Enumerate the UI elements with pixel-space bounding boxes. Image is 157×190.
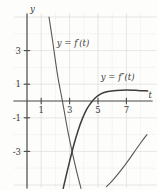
figure-container: 135731-1-3 y = f′(t)y = f″(t) yt: [0, 0, 157, 190]
x-axis-name: t: [149, 90, 153, 100]
label-f-double-prime: y = f″(t): [100, 72, 135, 82]
y-tick-label: 3: [16, 46, 21, 56]
y-axis-name: y: [29, 4, 35, 14]
axis-name-layer: yt: [29, 4, 153, 100]
annotation-layer: y = f′(t)y = f″(t): [56, 38, 135, 82]
y-tick-label: -1: [13, 113, 21, 123]
label-f-prime: y = f′(t): [56, 38, 89, 48]
x-tick-label: 5: [95, 105, 100, 115]
curve-f-prime: [107, 135, 147, 187]
y-tick-label: 1: [16, 79, 21, 89]
x-tick-label: 1: [38, 105, 43, 115]
curve-f-double-prime: [63, 90, 147, 188]
x-tick-label: 3: [67, 105, 72, 115]
y-tick-label: -3: [13, 147, 21, 157]
x-tick-label: 7: [124, 105, 129, 115]
calculus-graph: 135731-1-3 y = f′(t)y = f″(t) yt: [0, 0, 157, 190]
